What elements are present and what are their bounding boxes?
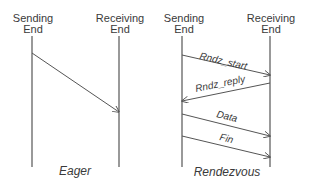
rndz-start-label: Rndz_start (199, 50, 250, 72)
eager-message-arrow (32, 53, 119, 112)
data-label: Data (216, 108, 240, 124)
protocol-diagram: Sending End Receiving End Eager Sending … (0, 0, 312, 189)
fin-label: Fin (219, 131, 236, 145)
eager-diagram: Sending End Receiving End Eager (13, 12, 144, 178)
eager-sender-header-line2: End (23, 23, 43, 35)
eager-caption: Eager (59, 164, 92, 178)
rndz-receiver-header-line2: End (261, 23, 281, 35)
rendezvous-diagram: Sending End Receiving End Rndz_start Rnd… (164, 12, 295, 179)
rndz-reply-label: Rndz_reply (194, 73, 247, 94)
rndz-sender-header-line2: End (174, 23, 194, 35)
eager-receiver-header-line2: End (110, 23, 130, 35)
rendezvous-caption: Rendezvous (194, 165, 261, 179)
